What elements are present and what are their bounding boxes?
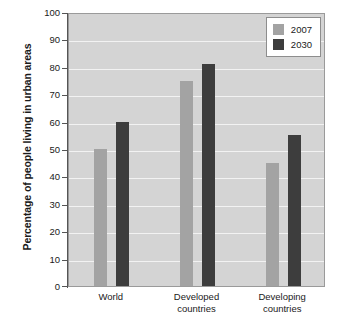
legend-item: 2030 xyxy=(273,37,312,52)
y-tick-label: 30 xyxy=(36,200,60,210)
y-tick-label: 80 xyxy=(36,63,60,73)
y-tick-label: 100 xyxy=(36,8,60,18)
legend-label: 2030 xyxy=(291,39,312,50)
bar-chart: Percentage of people living in urban are… xyxy=(0,0,337,322)
bar xyxy=(202,64,215,286)
bar xyxy=(288,135,301,286)
legend-swatch-icon xyxy=(273,24,284,35)
legend-item: 2007 xyxy=(273,22,312,37)
legend: 20072030 xyxy=(266,17,321,57)
y-tick-label: 90 xyxy=(36,35,60,45)
y-tick-label: 10 xyxy=(36,255,60,265)
x-axis-category-labels: WorldDeveloped countriesDeveloping count… xyxy=(68,291,325,321)
bar xyxy=(180,81,193,287)
y-tick-label: 70 xyxy=(36,90,60,100)
y-tick-label: 40 xyxy=(36,172,60,182)
bar xyxy=(116,122,129,286)
y-tick-label: 20 xyxy=(36,227,60,237)
y-tick-label: 0 xyxy=(36,282,60,292)
legend-label: 2007 xyxy=(291,24,312,35)
x-axis-label: World xyxy=(68,291,154,303)
legend-swatch-icon xyxy=(273,39,284,50)
x-axis-label: Developing countries xyxy=(239,291,325,314)
y-tick-label: 60 xyxy=(36,118,60,128)
y-axis-tick-labels: 0102030405060708090100 xyxy=(34,13,60,287)
plot-area: 20072030 xyxy=(68,13,325,287)
bar xyxy=(94,149,107,286)
x-axis-label: Developed countries xyxy=(154,291,240,314)
y-axis-title: Percentage of people living in urban are… xyxy=(19,19,35,275)
y-tick-label: 50 xyxy=(36,145,60,155)
bar xyxy=(266,163,279,286)
